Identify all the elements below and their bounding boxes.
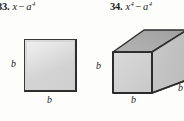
exercise-33-exponent: 4 [32, 0, 35, 7]
exercise-34-expression: x4−a4 [126, 1, 152, 12]
exercise-33-variable: x [13, 1, 18, 12]
prism-label-depth: b [178, 82, 183, 93]
exercise-33-term: a [26, 1, 31, 12]
exercise-33-operator: − [19, 1, 25, 12]
exercise-34-operator: − [135, 1, 141, 12]
exercise-34-header: 34.x4−a4 [110, 1, 152, 12]
prism-label-height: b [96, 60, 101, 71]
exercise-34-variable: x [126, 1, 131, 12]
prism-drawing [92, 20, 184, 121]
figure-square: b b [0, 20, 92, 121]
prism-front-face [113, 52, 152, 93]
square-shape [24, 39, 77, 92]
prism-label-width: b [131, 94, 136, 105]
exercise-33-number: 33. [0, 1, 10, 12]
exercise-34-base-exponent: 4 [131, 0, 134, 7]
exercise-33-header: 33.x−a4 [0, 1, 35, 12]
exercise-34-exponent: 4 [149, 0, 152, 7]
square-label-width: b [47, 94, 52, 105]
square-label-height: b [11, 58, 16, 69]
figure-rectangular-prism: b b b [92, 20, 184, 121]
exercise-34-number: 34. [110, 1, 123, 12]
textbook-page-fragment: 33.x−a4 34.x4−a4 b b [0, 0, 184, 121]
exercise-34-term: a [143, 1, 148, 12]
exercise-33-expression: x−a4 [13, 1, 36, 12]
